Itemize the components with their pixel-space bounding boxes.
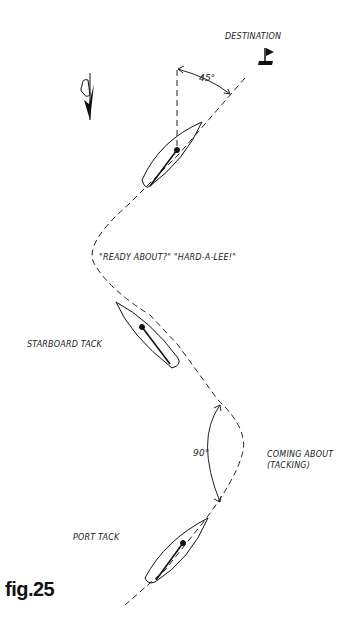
destination-label: DESTINATION — [225, 32, 281, 41]
port-tack-label: PORT TACK — [73, 533, 119, 542]
figure-number: fig.25 — [5, 578, 54, 601]
boat-icon — [116, 302, 179, 368]
sailing-diagram: DESTINATION 45° "READY ABOUT?" "HARD-A-L… — [0, 0, 361, 630]
commands-label: "READY ABOUT?" "HARD-A-LEE!" — [99, 253, 236, 262]
angle-90-label: 90° — [193, 448, 210, 458]
tacking-label: (TACKING) — [267, 461, 310, 470]
starboard-tack-label: STARBOARD TACK — [27, 340, 102, 349]
boat-icon — [145, 518, 208, 583]
destination-flag-icon — [258, 48, 274, 65]
wind-arrow-icon — [81, 73, 94, 120]
boat-icon — [142, 122, 202, 187]
coming-about-label: COMING ABOUT — [267, 450, 333, 459]
angle-45-label: 45° — [199, 73, 216, 83]
course-path — [92, 70, 245, 605]
